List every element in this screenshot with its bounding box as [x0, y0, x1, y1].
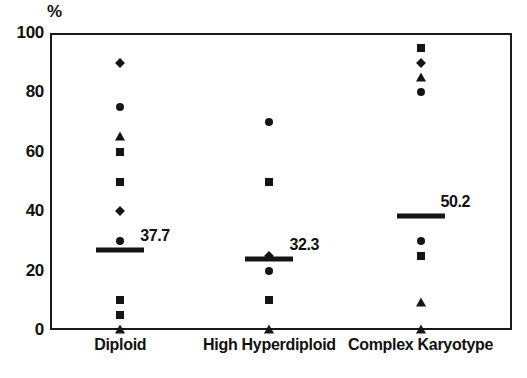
- x-category-label: Diploid: [94, 336, 146, 354]
- y-tick-40: 40: [2, 201, 44, 221]
- y-tick-0: 0: [2, 320, 44, 340]
- y-tick-20: 20: [2, 261, 44, 281]
- y-tick-60: 60: [2, 142, 44, 162]
- x-category-label: Complex Karyotype: [348, 336, 493, 354]
- x-category-label: High Hyperdiploid: [203, 336, 336, 354]
- y-tick-80: 80: [2, 82, 44, 102]
- y-axis-unit-label: %: [47, 2, 62, 22]
- dot-plot-figure: % 020406080100 37.732.350.2 DiploidHigh …: [0, 0, 527, 378]
- y-tick-100: 100: [2, 23, 44, 43]
- plot-frame: [50, 33, 512, 330]
